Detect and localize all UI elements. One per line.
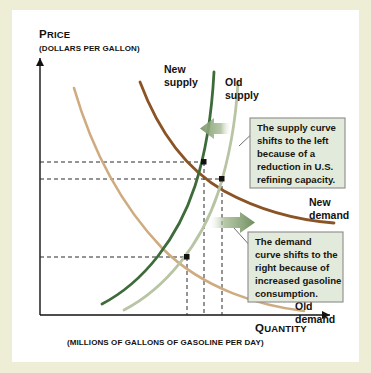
point-e-mid <box>201 159 207 165</box>
y-axis-title-group: PRICE (DOLLARS PER GALLON) <box>39 28 140 53</box>
point-e-new <box>219 176 225 182</box>
svg-text:right because of: right because of <box>255 262 330 273</box>
svg-text:curve shifts to the: curve shifts to the <box>255 249 338 260</box>
label-old-demand: Old demand <box>295 300 335 325</box>
point-e-old <box>184 254 190 260</box>
y-axis-title: PRICE <box>39 28 70 40</box>
svg-text:Old: Old <box>225 76 243 88</box>
x-axis-title-group: QUANTITY (MILLIONS OF GALLONS OF GASOLIN… <box>67 322 307 347</box>
svg-text:supply: supply <box>164 76 198 88</box>
demand-callout: The demand curve shifts to the right bec… <box>208 212 343 302</box>
supply-demand-chart: PRICE (DOLLARS PER GALLON) QUANTITY (MIL… <box>12 10 359 362</box>
svg-text:refining capacity.: refining capacity. <box>257 174 335 185</box>
svg-text:The supply curve: The supply curve <box>257 122 336 133</box>
svg-text:demand: demand <box>309 209 349 221</box>
svg-text:increased gasoline: increased gasoline <box>255 275 341 286</box>
svg-text:because of a: because of a <box>257 148 316 159</box>
figure-panel: PRICE (DOLLARS PER GALLON) QUANTITY (MIL… <box>12 10 359 362</box>
svg-text:reduction in U.S.: reduction in U.S. <box>257 161 333 172</box>
svg-text:supply: supply <box>225 89 259 101</box>
y-axis-subtitle: (DOLLARS PER GALLON) <box>39 44 140 53</box>
label-old-supply: Old supply <box>225 76 259 101</box>
supply-callout-arrow <box>200 118 232 139</box>
svg-text:shifts to the left: shifts to the left <box>257 135 329 146</box>
demand-callout-arrow <box>208 212 255 233</box>
svg-text:consumption.: consumption. <box>255 288 318 299</box>
curve-new-supply <box>102 72 214 304</box>
svg-text:New: New <box>164 63 186 75</box>
label-new-supply: New supply <box>164 63 198 88</box>
svg-text:The demand: The demand <box>255 236 312 247</box>
x-axis-subtitle: (MILLIONS OF GALLONS OF GASOLINE PER DAY… <box>67 338 264 347</box>
svg-text:New: New <box>309 196 331 208</box>
svg-text:demand: demand <box>295 313 335 325</box>
label-new-demand: New demand <box>309 196 349 221</box>
equilibrium-points <box>184 159 225 260</box>
